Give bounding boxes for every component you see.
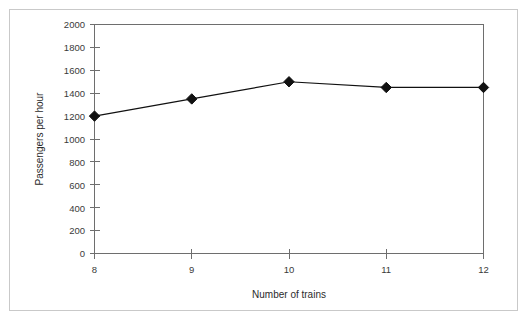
y-tick-label-1400: 1400 bbox=[64, 88, 85, 99]
series-markers-group bbox=[89, 77, 488, 122]
x-tick-label-10: 10 bbox=[284, 264, 295, 275]
data-point-marker bbox=[89, 111, 99, 121]
data-point-marker bbox=[478, 82, 488, 92]
x-axis-title: Number of trains bbox=[252, 289, 326, 300]
plot-area-box bbox=[95, 25, 484, 254]
x-tick-label-11: 11 bbox=[381, 264, 391, 275]
y-tick-label-2000: 2000 bbox=[64, 19, 85, 30]
plot-frame-path bbox=[95, 25, 484, 254]
x-tick-label-8: 8 bbox=[92, 264, 97, 275]
y-tick-label-1800: 1800 bbox=[64, 42, 85, 53]
data-point-marker bbox=[381, 82, 391, 92]
x-axis-tick-labels: 8 9 10 11 12 bbox=[92, 264, 489, 275]
y-tick-label-200: 200 bbox=[69, 225, 85, 236]
y-tick-label-1200: 1200 bbox=[64, 111, 85, 122]
y-tick-label-600: 600 bbox=[69, 180, 85, 191]
y-tick-label-1000: 1000 bbox=[64, 134, 85, 145]
y-tick-label-400: 400 bbox=[69, 203, 85, 214]
x-tick-label-12: 12 bbox=[478, 264, 489, 275]
y-axis-tick-labels: 2000 1800 1600 1400 1200 1000 800 600 40… bbox=[64, 19, 85, 259]
y-tick-label-1600: 1600 bbox=[64, 65, 85, 76]
data-point-marker bbox=[187, 94, 197, 104]
y-axis-title: Passengers per hour bbox=[34, 92, 45, 186]
x-tick-label-9: 9 bbox=[189, 264, 194, 275]
line-chart: 2000 1800 1600 1400 1200 1000 800 600 40… bbox=[0, 0, 529, 328]
data-series-group bbox=[89, 77, 488, 122]
y-tick-label-0: 0 bbox=[80, 248, 85, 259]
data-point-marker bbox=[284, 77, 294, 87]
y-tick-label-800: 800 bbox=[69, 157, 85, 168]
chart-figure: 2000 1800 1600 1400 1200 1000 800 600 40… bbox=[0, 0, 529, 328]
